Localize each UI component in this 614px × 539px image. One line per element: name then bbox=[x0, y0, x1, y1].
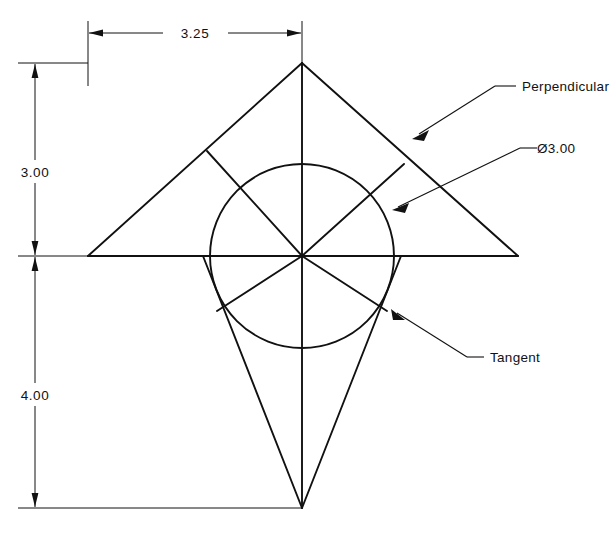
tangent-radius-left bbox=[217, 256, 302, 311]
dimension-4-00: 4.00 bbox=[18, 257, 302, 508]
arrowhead-top-4-00 bbox=[32, 257, 39, 271]
perpendicular-radii bbox=[207, 151, 404, 256]
leader-diameter: Ø3.00 bbox=[392, 141, 575, 213]
dimension-label-4-00: 4.00 bbox=[21, 388, 50, 403]
perpendicular-radius-left bbox=[207, 151, 302, 256]
leader-line-diameter bbox=[398, 148, 520, 207]
dimension-3-25: 3.25 bbox=[88, 21, 302, 86]
leader-line-perpendicular bbox=[419, 86, 495, 134]
leader-perpendicular: Perpendicular bbox=[412, 79, 609, 141]
arrowhead-bottom-4-00 bbox=[32, 493, 39, 507]
arrowhead-diameter bbox=[392, 203, 409, 213]
upper-triangle bbox=[88, 63, 518, 256]
arrowhead-top-3-00 bbox=[32, 64, 39, 78]
dimension-3-00: 3.00 bbox=[18, 63, 88, 256]
arrowhead-right-3-25 bbox=[287, 30, 301, 37]
annotation-label-perpendicular: Perpendicular bbox=[522, 79, 609, 94]
leader-line-tangent bbox=[397, 313, 467, 357]
annotation-label-diameter: Ø3.00 bbox=[537, 141, 575, 156]
leader-tangent: Tangent bbox=[391, 309, 540, 365]
arrowhead-left-3-25 bbox=[89, 30, 103, 37]
arrowhead-perpendicular bbox=[412, 130, 429, 141]
arrowhead-bottom-3-00 bbox=[32, 241, 39, 255]
drawing-canvas: 3.25 3.00 4.00 bbox=[0, 0, 614, 539]
annotation-label-tangent: Tangent bbox=[490, 350, 540, 365]
perpendicular-radius-right bbox=[302, 164, 404, 256]
dimension-label-3-00: 3.00 bbox=[21, 165, 50, 180]
dimension-label-3-25: 3.25 bbox=[181, 26, 210, 41]
tangent-radius-right bbox=[302, 256, 387, 311]
technical-drawing-root: 3.25 3.00 4.00 bbox=[0, 0, 614, 539]
triangle-edge-upper-left bbox=[88, 63, 302, 256]
arrowhead-tangent bbox=[391, 309, 405, 320]
